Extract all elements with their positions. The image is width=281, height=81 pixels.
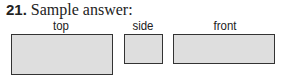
- view-label-front: front: [199, 18, 252, 33]
- problem-heading: 21. Sample answer:: [6, 1, 133, 19]
- top-view-rectangle: [11, 34, 113, 75]
- front-view-rectangle: [173, 34, 275, 64]
- side-view-rectangle: [124, 34, 163, 64]
- problem-number: 21.: [6, 1, 27, 18]
- view-label-side: side: [125, 18, 160, 33]
- problem-title: Sample answer:: [31, 1, 133, 18]
- view-label-top: top: [35, 18, 88, 33]
